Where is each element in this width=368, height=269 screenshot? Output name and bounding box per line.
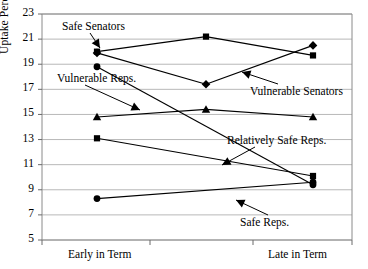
- y-tick-label: 15: [4, 106, 34, 118]
- data-point-diamond: [202, 80, 211, 89]
- series-annotation-label: Safe Reps.: [240, 216, 289, 228]
- series-line: [97, 109, 206, 117]
- data-point-circle: [310, 181, 317, 188]
- annotation-arrowhead: [92, 39, 100, 48]
- data-point-triangle: [202, 105, 210, 113]
- x-tick-label: Early in Term: [68, 248, 132, 260]
- series-annotation-label: Relatively Safe Reps.: [227, 134, 326, 146]
- chart-figure: Uptake Percentage 57911131517192123 Earl…: [0, 0, 368, 269]
- series-annotation-label: Safe Senators: [62, 20, 125, 32]
- y-tick-label: 7: [4, 207, 34, 219]
- data-point-square: [203, 34, 209, 40]
- data-point-diamond: [309, 41, 318, 50]
- series-annotation-label: Vulnerable Senators: [250, 85, 343, 97]
- y-tick-label: 17: [4, 81, 34, 93]
- data-point-circle: [94, 195, 101, 202]
- y-tick-label: 21: [4, 31, 34, 43]
- annotation-arrowhead: [242, 71, 251, 79]
- y-tick-label: 5: [4, 232, 34, 244]
- y-tick-label: 13: [4, 132, 34, 144]
- data-point-circle: [94, 63, 101, 70]
- y-tick-label: 23: [4, 6, 34, 18]
- data-point-square: [310, 52, 316, 58]
- series-line: [206, 45, 313, 84]
- y-tick-label: 11: [4, 157, 34, 169]
- x-tick-label: Late in Term: [268, 248, 327, 260]
- data-point-square: [310, 173, 316, 179]
- y-tick-label: 9: [4, 182, 34, 194]
- annotation-leader: [85, 85, 140, 110]
- y-tick-label: 19: [4, 56, 34, 68]
- series-line: [206, 109, 313, 117]
- series-line: [97, 182, 313, 198]
- data-point-square: [94, 135, 100, 141]
- series-annotation-label: Vulnerable Reps.: [57, 72, 136, 84]
